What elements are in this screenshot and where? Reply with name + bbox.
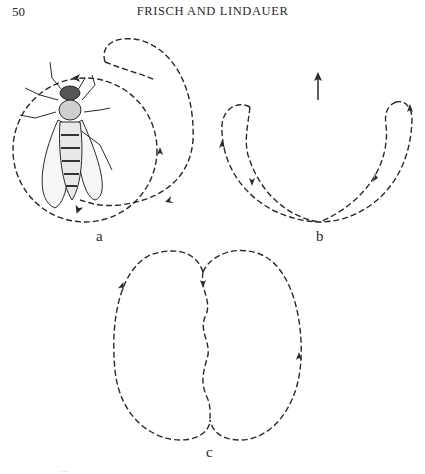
- figure-caption-partial: …: [60, 464, 420, 474]
- dance-figure: [0, 0, 425, 474]
- direction-arrow-icons: [72, 74, 413, 360]
- panel-label-c: c: [206, 444, 213, 461]
- panel-a-path: [13, 39, 193, 222]
- arrow-up-icon: [314, 72, 322, 100]
- panel-b-path: [222, 102, 412, 222]
- panel-c-path: [114, 250, 301, 440]
- bee-illustration: [20, 62, 112, 208]
- panel-label-b: b: [316, 228, 324, 245]
- panel-label-a: a: [96, 228, 103, 245]
